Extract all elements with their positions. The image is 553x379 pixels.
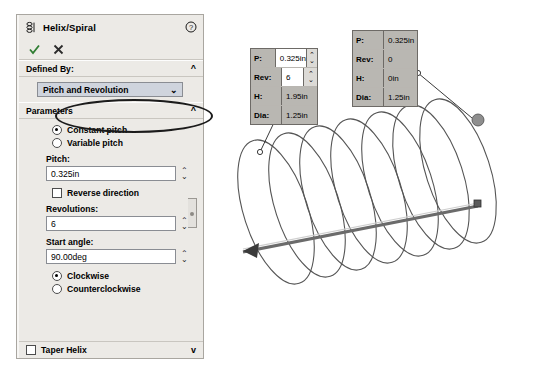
callout-stepper-revolutions[interactable]: ⌃⌄ xyxy=(303,68,317,86)
callout-stepper-pitch[interactable]: ⌃⌄ xyxy=(306,49,317,67)
confirm-bar xyxy=(19,39,203,60)
section-header-defined-by[interactable]: Defined By: ^ xyxy=(19,60,203,77)
callout-left[interactable]: P: 0.325in ⌃⌄ Rev: 6 ⌃⌄ H: 1.95in Dia: 1… xyxy=(250,48,318,125)
radio-label-variable-pitch: Variable pitch xyxy=(67,138,123,148)
label-start-angle: Start angle: xyxy=(46,237,194,247)
callout-value-diameter: 1.25in xyxy=(282,106,317,124)
chevron-down-icon-taper-helix[interactable]: v xyxy=(191,345,196,355)
chevron-up-icon-defined-by[interactable]: ^ xyxy=(191,64,196,73)
radio-variable-pitch[interactable]: Variable pitch xyxy=(52,138,194,148)
callout-row: H: 1.95in xyxy=(251,86,317,105)
revolutions-input[interactable]: 6 xyxy=(46,216,176,231)
defined-by-dropdown[interactable]: Pitch and Revolution ⌄ xyxy=(37,82,183,97)
callout-value-pitch[interactable]: 0.325in xyxy=(276,49,306,67)
callout-value-height: 1.95in xyxy=(282,87,317,105)
callout-label: Dia: xyxy=(353,88,384,106)
callout-value-diameter: 1.25in xyxy=(384,88,417,106)
field-row-pitch: 0.325in ⌃⌄ xyxy=(46,166,194,181)
section-title-parameters: Parameters xyxy=(26,106,73,116)
callout-label: Dia: xyxy=(251,106,282,124)
radio-icon-clockwise[interactable] xyxy=(52,271,62,281)
radio-icon-counterclockwise[interactable] xyxy=(52,284,62,294)
svg-text:?: ? xyxy=(189,23,193,32)
checkbox-icon-reverse-direction[interactable] xyxy=(52,188,62,198)
callout-row: Rev: 0 xyxy=(353,49,417,68)
callout-label: H: xyxy=(353,69,384,87)
panel-header: Helix/Spiral ? xyxy=(19,15,203,39)
section-title-defined-by: Defined By: xyxy=(26,64,74,74)
help-icon[interactable]: ? xyxy=(185,21,197,33)
checkbox-reverse-direction[interactable]: Reverse direction xyxy=(52,188,194,198)
label-revolutions: Revolutions: xyxy=(46,204,194,214)
radio-constant-pitch[interactable]: Constant pitch xyxy=(52,125,194,135)
callout-value-pitch: 0.325in xyxy=(384,31,417,49)
radio-icon-variable-pitch[interactable] xyxy=(52,138,62,148)
callout-row[interactable]: P: 0.325in ⌃⌄ xyxy=(251,49,317,67)
callout-label: Rev: xyxy=(251,68,282,86)
callout-label: H: xyxy=(251,87,282,105)
checkbox-label-reverse-direction: Reverse direction xyxy=(67,188,139,198)
callout-label: Rev: xyxy=(353,50,384,68)
helix-property-manager-panel: Helix/Spiral ? Defined By: ^ Pitch and R… xyxy=(16,14,204,359)
panel-pin-handle[interactable] xyxy=(188,198,197,228)
page-title: Helix/Spiral xyxy=(43,22,96,33)
defined-by-selected-value: Pitch and Revolution xyxy=(43,85,128,95)
callout-row: Dia: 1.25in xyxy=(251,105,317,124)
chevron-up-icon-parameters[interactable]: ^ xyxy=(191,106,196,115)
callout-row: P: 0.325in xyxy=(353,31,417,49)
callout-value-revolutions[interactable]: 6 xyxy=(282,68,303,86)
pitch-stepper[interactable]: ⌃⌄ xyxy=(179,166,190,181)
taper-helix-section[interactable]: Taper Helix v xyxy=(19,341,203,358)
parameters-body: Constant pitch Variable pitch Pitch: 0.3… xyxy=(19,119,203,304)
taper-helix-label: Taper Helix xyxy=(41,345,87,355)
callout-right[interactable]: P: 0.325in Rev: 0 H: 0in Dia: 1.25in xyxy=(352,30,418,107)
section-header-parameters[interactable]: Parameters ^ xyxy=(19,102,203,119)
callout-row: H: 0in xyxy=(353,68,417,87)
accept-button[interactable] xyxy=(29,44,40,55)
callout-label: P: xyxy=(353,31,384,49)
pin-dot-icon xyxy=(190,212,194,216)
radio-counterclockwise[interactable]: Counterclockwise xyxy=(52,284,194,294)
chevron-down-icon[interactable]: ⌄ xyxy=(170,85,178,95)
field-row-revolutions: 6 ⌃⌄ xyxy=(46,216,194,231)
callout-label: P: xyxy=(251,49,276,67)
callout-value-height: 0in xyxy=(384,69,417,87)
callout-row[interactable]: Rev: 6 ⌃⌄ xyxy=(251,67,317,86)
panel-inner: Helix/Spiral ? Defined By: ^ Pitch and R… xyxy=(17,15,203,358)
radio-icon-constant-pitch[interactable] xyxy=(52,125,62,135)
radio-clockwise[interactable]: Clockwise xyxy=(52,271,194,281)
cancel-button[interactable] xyxy=(53,44,64,55)
helix-start-handle xyxy=(472,114,484,126)
label-pitch: Pitch: xyxy=(46,154,194,164)
radio-label-constant-pitch: Constant pitch xyxy=(67,125,127,135)
axis-arrow xyxy=(243,200,481,258)
radio-label-counterclockwise: Counterclockwise xyxy=(67,284,141,294)
start-angle-stepper[interactable]: ⌃⌄ xyxy=(179,249,190,264)
callout-value-revolutions: 0 xyxy=(384,50,417,68)
start-angle-input[interactable]: 90.00deg xyxy=(46,249,176,264)
helix-icon xyxy=(25,21,38,34)
pitch-input[interactable]: 0.325in xyxy=(46,166,176,181)
field-row-start-angle: 90.00deg ⌃⌄ xyxy=(46,249,194,264)
checkbox-icon-taper-helix[interactable] xyxy=(26,345,36,355)
radio-label-clockwise: Clockwise xyxy=(67,271,109,281)
callout-row: Dia: 1.25in xyxy=(353,87,417,106)
